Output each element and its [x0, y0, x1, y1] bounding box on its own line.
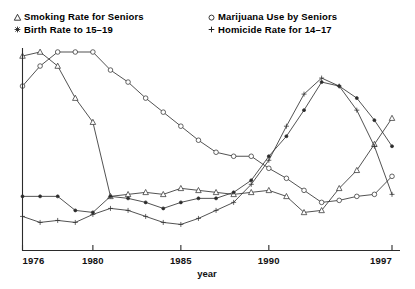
data-point-marker — [38, 220, 43, 225]
data-point-marker — [372, 192, 377, 197]
data-point-marker — [390, 174, 395, 179]
data-point-marker — [196, 216, 201, 221]
data-point-marker — [162, 207, 165, 210]
data-point-marker — [355, 97, 358, 100]
data-point-marker — [143, 96, 148, 101]
data-point-marker — [56, 195, 59, 198]
data-point-marker — [179, 124, 184, 129]
data-point-marker — [284, 124, 289, 129]
data-point-marker — [55, 63, 61, 68]
data-point-marker — [39, 195, 42, 198]
series-line — [23, 52, 393, 212]
x-tick-label: 1980 — [82, 255, 104, 266]
data-point-marker — [38, 64, 43, 69]
data-point-marker — [127, 197, 130, 200]
data-point-marker — [144, 201, 147, 204]
data-point-marker — [232, 191, 235, 194]
data-point-marker — [390, 192, 395, 197]
data-point-marker — [73, 220, 78, 225]
x-axis-ticks: 19761980198519901997 — [23, 245, 393, 266]
data-point-marker — [214, 208, 219, 213]
data-point-marker — [302, 188, 307, 193]
data-point-marker — [214, 150, 219, 155]
data-point-marker — [319, 200, 324, 205]
data-point-marker — [179, 201, 182, 204]
series-marijuana-use-by-seniors — [20, 50, 394, 205]
data-point-marker — [389, 115, 395, 120]
data-point-marker — [197, 197, 200, 200]
data-point-marker — [178, 222, 183, 227]
x-axis-title: year — [197, 268, 217, 279]
x-tick-label: 1985 — [170, 255, 192, 266]
data-point-marker — [250, 179, 253, 182]
data-point-marker — [161, 220, 166, 225]
data-point-marker — [108, 68, 113, 73]
series-line — [23, 52, 393, 202]
data-point-marker — [109, 195, 112, 198]
data-point-marker — [267, 166, 272, 171]
data-point-marker — [337, 198, 342, 203]
data-point-marker — [108, 206, 113, 211]
data-point-marker — [355, 194, 360, 199]
data-point-marker — [231, 154, 236, 159]
x-tick-label: 1990 — [258, 255, 280, 266]
data-point-marker — [303, 109, 306, 112]
data-point-marker — [73, 50, 78, 55]
data-point-marker — [55, 218, 60, 223]
data-point-marker — [126, 208, 131, 213]
data-point-marker — [178, 185, 184, 190]
data-point-marker — [215, 197, 218, 200]
data-point-marker — [391, 145, 394, 148]
series-layer — [20, 49, 395, 227]
data-point-marker — [373, 119, 376, 122]
data-point-marker — [266, 187, 272, 192]
data-point-marker — [126, 80, 131, 85]
chart-plot-area: 19761980198519901997 year — [0, 0, 415, 289]
data-point-marker — [161, 110, 166, 115]
x-tick-label: 1997 — [370, 255, 392, 266]
data-point-marker — [249, 154, 254, 159]
data-point-marker — [91, 50, 96, 55]
data-point-marker — [285, 135, 288, 138]
x-tick-label: 1976 — [23, 255, 45, 266]
data-point-marker — [37, 49, 43, 54]
data-point-marker — [143, 189, 149, 194]
series-smoking-rate-for-seniors — [20, 49, 395, 215]
data-point-marker — [196, 138, 201, 143]
data-point-marker — [74, 209, 77, 212]
data-point-marker — [284, 176, 289, 181]
data-point-marker — [320, 81, 323, 84]
data-point-marker — [143, 214, 148, 219]
data-point-marker — [73, 95, 79, 100]
data-point-marker — [55, 50, 60, 55]
chart-figure: Smoking Rate for Seniors Birth Rate to 1… — [0, 0, 415, 289]
